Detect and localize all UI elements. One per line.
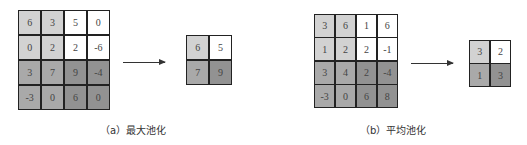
grid-cell: 6: [336, 15, 355, 37]
grid-cell: 2: [65, 36, 86, 59]
grid-cell: -1: [378, 38, 397, 60]
grid-cell: 3: [42, 11, 63, 34]
grid-cell: -4: [378, 62, 397, 84]
average-pooling-caption: （b）平均池化: [360, 122, 426, 137]
grid-cell: 5: [65, 11, 86, 34]
grid-cell: 0: [42, 86, 63, 109]
grid-cell: 6: [378, 15, 397, 37]
max-pooling-input-grid: 6 3 5 0 0 2 2 -6 3 7 9 -4 -3 0 6 0: [18, 10, 110, 110]
grid-cell: 0: [336, 85, 355, 107]
grid-cell: 8: [378, 85, 397, 107]
average-pooling-output-grid: 3 2 1 3: [469, 40, 511, 87]
grid-cell: 9: [65, 61, 86, 84]
grid-cell: 6: [357, 85, 376, 107]
grid-cell: 5: [210, 36, 231, 59]
grid-cell: 2: [491, 41, 510, 63]
grid-cell: 2: [42, 36, 63, 59]
grid-cell: 4: [336, 62, 355, 84]
grid-cell: 1: [315, 38, 334, 60]
grid-cell: 2: [357, 62, 376, 84]
grid-cell: 1: [470, 64, 489, 86]
grid-cell: 2: [357, 38, 376, 60]
grid-cell: 7: [187, 61, 208, 84]
grid-cell: -3: [19, 86, 40, 109]
grid-cell: 0: [19, 36, 40, 59]
arrow-icon: [123, 62, 165, 63]
grid-cell: 3: [491, 64, 510, 86]
grid-cell: 3: [315, 62, 334, 84]
average-pooling-input-grid: 3 6 1 6 1 2 2 -1 3 4 2 -4 -3 0 6 8: [314, 14, 398, 108]
grid-cell: -3: [315, 85, 334, 107]
grid-cell: 6: [187, 36, 208, 59]
arrow-icon: [411, 63, 453, 64]
grid-cell: 3: [315, 15, 334, 37]
grid-cell: 1: [357, 15, 376, 37]
grid-cell: 3: [19, 61, 40, 84]
grid-cell: -4: [88, 61, 109, 84]
max-pooling-caption: （a）最大池化: [100, 122, 166, 137]
grid-cell: 9: [210, 61, 231, 84]
grid-cell: 2: [336, 38, 355, 60]
grid-cell: -6: [88, 36, 109, 59]
grid-cell: 0: [88, 11, 109, 34]
grid-cell: 0: [88, 86, 109, 109]
grid-cell: 3: [470, 41, 489, 63]
max-pooling-output-grid: 6 5 7 9: [186, 35, 232, 85]
grid-cell: 6: [65, 86, 86, 109]
grid-cell: 6: [19, 11, 40, 34]
grid-cell: 7: [42, 61, 63, 84]
